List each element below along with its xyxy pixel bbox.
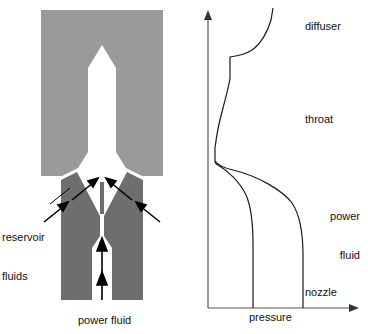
upper-right-wall [99,10,163,176]
label-diffuser-region: diffuser [305,20,341,33]
label-nozzle-region: nozzle [305,286,337,299]
chart-x-axis-label: pressure [249,311,292,324]
curve-reservoir-fluid-pressure [215,161,253,308]
label-throat-region: throat [305,113,333,126]
chart-y-axis-arrowhead [204,10,212,20]
curve-power-fluid-pressure [215,8,303,308]
lower-right-nozzle-body [104,172,143,300]
label-power-fluid-region-line2: fluid [296,249,360,262]
label-reservoir-fluids: reservoir fluids [2,205,45,309]
chart-x-axis-arrowhead [349,304,359,312]
label-reservoir-fluids-line1: reservoir [2,231,45,244]
label-reservoir-fluids-line2: fluids [2,270,45,283]
label-power-fluid-inlet: power fluid [78,314,131,327]
label-power-fluid-region-line1: power [296,210,360,223]
lower-left-nozzle-body [61,172,100,300]
figure-canvas: reservoir fluids power fluid diffuser th… [0,0,368,334]
nozzle-tip-wedge [100,182,104,214]
jet-pump-cross-section [41,10,163,300]
label-power-fluid-region: power fluid [296,184,360,288]
upper-left-wall [41,10,105,176]
power-fluid-arrow [97,238,107,300]
